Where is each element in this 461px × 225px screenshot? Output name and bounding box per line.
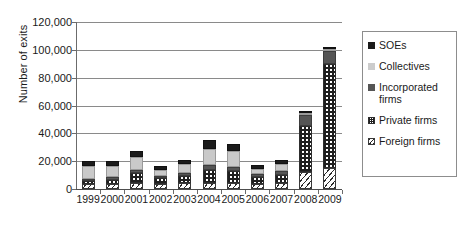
legend-item-foreign-firms[interactable]: Foreign firms xyxy=(368,135,452,147)
bar-segment xyxy=(275,164,288,172)
chart-legend: SOEsCollectivesIncorporated firmsPrivate… xyxy=(362,31,457,177)
bar-segment xyxy=(299,126,312,172)
bar-2000[interactable] xyxy=(106,161,119,189)
bar-segment xyxy=(203,170,216,183)
bar-segment xyxy=(106,184,119,189)
bar-segment xyxy=(203,183,216,189)
x-tick-label-2000: 2000 xyxy=(101,193,124,205)
bar-segment xyxy=(106,166,119,177)
bar-2001[interactable] xyxy=(130,151,143,189)
bar-segment xyxy=(203,140,216,148)
x-tick-label-1999: 1999 xyxy=(76,193,99,205)
x-tick-label-2001: 2001 xyxy=(125,193,148,205)
bar-2009[interactable] xyxy=(323,47,336,189)
x-tick-label-2002: 2002 xyxy=(149,193,172,205)
bar-segment xyxy=(227,151,240,166)
bar-segment xyxy=(275,175,288,183)
chart-figure: Number of exits 020,00040,00060,00080,00… xyxy=(0,0,461,225)
legend-label: SOEs xyxy=(379,39,406,51)
legend-label: Private firms xyxy=(379,114,437,126)
bar-segment xyxy=(323,64,336,168)
legend-item-incorporated-firms[interactable]: Incorporated firms xyxy=(368,81,452,105)
bar-segment xyxy=(178,183,191,189)
legend-swatch-icon xyxy=(368,42,375,49)
bar-segment xyxy=(299,172,312,189)
bar-segment xyxy=(178,164,191,173)
x-tick-label-2007: 2007 xyxy=(270,193,293,205)
bar-segment xyxy=(227,183,240,189)
bar-segment xyxy=(178,176,191,184)
bar-segment xyxy=(82,184,95,189)
legend-item-private-firms[interactable]: Private firms xyxy=(368,114,452,126)
legend-swatch-icon xyxy=(368,117,375,124)
legend-item-soes[interactable]: SOEs xyxy=(368,39,452,51)
bar-2003[interactable] xyxy=(178,160,191,189)
plot-area xyxy=(76,22,342,190)
bar-segment xyxy=(299,115,312,126)
y-tick-label: 120,000 xyxy=(32,17,72,28)
bar-2008[interactable] xyxy=(299,111,312,189)
legend-label: Incorporated firms xyxy=(379,81,452,105)
x-tick-label-2005: 2005 xyxy=(221,193,244,205)
bar-segment xyxy=(130,183,143,189)
bar-segment xyxy=(275,183,288,189)
bar-2002[interactable] xyxy=(154,166,167,189)
y-tick-label: 80,000 xyxy=(38,72,72,83)
legend-swatch-icon xyxy=(368,63,375,70)
x-tick-mark xyxy=(342,190,343,194)
bar-series-group xyxy=(76,22,342,190)
legend-label: Foreign firms xyxy=(379,135,440,147)
legend-swatch-icon xyxy=(368,138,375,145)
bar-2005[interactable] xyxy=(227,144,240,189)
legend-label: Collectives xyxy=(379,60,430,72)
x-tick-label-2009: 2009 xyxy=(318,193,341,205)
x-axis-tick-labels: 1999200020012002200320042005200620072008… xyxy=(76,193,342,211)
bar-2006[interactable] xyxy=(251,165,264,189)
bar-segment xyxy=(130,173,143,183)
y-tick-label: 20,000 xyxy=(38,156,72,167)
bar-segment xyxy=(251,177,264,184)
bar-segment xyxy=(82,166,95,179)
legend-item-collectives[interactable]: Collectives xyxy=(368,60,452,72)
x-tick-label-2004: 2004 xyxy=(197,193,220,205)
x-tick-label-2006: 2006 xyxy=(246,193,269,205)
bar-1999[interactable] xyxy=(82,161,95,189)
bar-segment xyxy=(323,51,336,64)
bar-segment xyxy=(227,144,240,152)
bar-2004[interactable] xyxy=(203,140,216,189)
bar-segment xyxy=(323,168,336,189)
bar-segment xyxy=(251,184,264,189)
x-tick-label-2003: 2003 xyxy=(173,193,196,205)
bar-segment xyxy=(203,149,216,166)
y-tick-label: 60,000 xyxy=(38,100,72,111)
bar-2007[interactable] xyxy=(275,160,288,189)
y-tick-label: 40,000 xyxy=(38,128,72,139)
bar-segment xyxy=(130,157,143,170)
x-tick-label-2008: 2008 xyxy=(294,193,317,205)
legend-swatch-icon xyxy=(368,84,375,91)
y-tick-label: 100,000 xyxy=(32,44,72,55)
bar-segment xyxy=(227,171,240,183)
y-axis-tick-labels: 020,00040,00060,00080,000100,000120,000 xyxy=(18,0,72,225)
bar-segment xyxy=(154,184,167,189)
